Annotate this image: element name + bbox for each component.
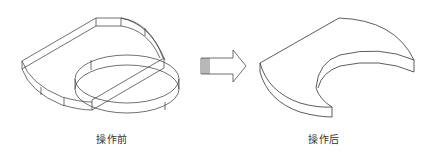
before-solid (22, 18, 165, 110)
before-cylinder (75, 55, 179, 113)
figure-drawing (0, 0, 431, 153)
right-arrow-icon (201, 50, 246, 82)
operation-figure: 操作前 操作后 (0, 0, 431, 153)
after-solid (260, 18, 414, 117)
caption-before: 操作前 (96, 131, 128, 146)
caption-after: 操作后 (308, 131, 340, 146)
